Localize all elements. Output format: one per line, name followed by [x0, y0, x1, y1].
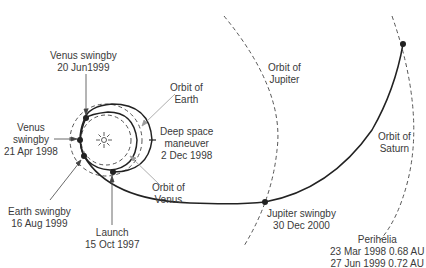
label-line: Orbit of [170, 82, 203, 94]
label-line: 20 Jun1999 [50, 62, 117, 74]
label-line: Venus [152, 194, 185, 206]
label-line: 15 Oct 1997 [85, 239, 139, 251]
label-perihelia: Perihelia 23 Mar 1998 0.68 AU 27 Jun 199… [330, 234, 425, 268]
label-venus-swingby-1: Venus swingby 21 Apr 1998 [4, 122, 58, 158]
label-orbit-earth: Orbit of Earth [170, 82, 203, 106]
label-line: swingby [4, 134, 58, 146]
jupiter-swingby-dot [262, 199, 268, 205]
label-line: 23 Mar 1998 0.68 AU [330, 246, 425, 258]
label-line: Orbit of [152, 182, 185, 194]
label-line: 21 Apr 1998 [4, 146, 58, 158]
label-line: 30 Dec 2000 [267, 220, 336, 232]
label-launch: Launch 15 Oct 1997 [85, 227, 139, 251]
label-line: Jupiter swingby [267, 208, 336, 220]
label-line: Earth [170, 94, 203, 106]
label-deep-space-maneuver: Deep space maneuver 2 Dec 1998 [160, 126, 213, 162]
orbit-saturn [380, 16, 414, 240]
label-line: Earth swingby [8, 206, 71, 218]
label-line: Deep space [160, 126, 213, 138]
sun-icon [96, 132, 112, 148]
leader-orbit-venus [132, 158, 160, 185]
label-venus-swingby-2: Venus swingby 20 Jun1999 [50, 50, 117, 74]
label-line: Saturn [378, 143, 411, 155]
leader-earth-swingby [50, 163, 79, 200]
label-line: maneuver [160, 138, 213, 150]
label-orbit-saturn: Orbit of Saturn [378, 131, 411, 155]
label-line: Orbit of [268, 62, 301, 74]
trajectory-loop-inner [80, 112, 137, 170]
label-line: 16 Aug 1999 [8, 218, 71, 230]
saturn-arrival-dot [400, 41, 406, 47]
label-orbit-venus: Orbit of Venus [152, 182, 185, 206]
label-line: Jupiter [268, 74, 301, 86]
label-line: Venus swingby [50, 50, 117, 62]
trajectory-loop-outer [80, 104, 152, 172]
label-line: 2 Dec 1998 [160, 150, 213, 162]
label-line: Launch [85, 227, 139, 239]
orbit-venus [81, 115, 131, 165]
label-line: Orbit of [378, 131, 411, 143]
venus-swingby-1-dot [77, 137, 83, 143]
trajectory-outbound [80, 44, 403, 204]
label-line: 27 Jun 1999 0.72 AU [330, 258, 425, 268]
launch-dot [110, 169, 116, 175]
label-earth-swingby: Earth swingby 16 Aug 1999 [8, 206, 71, 230]
label-orbit-jupiter: Orbit of Jupiter [268, 62, 301, 86]
label-line: Venus [4, 122, 58, 134]
label-jupiter-swingby: Jupiter swingby 30 Dec 2000 [267, 208, 336, 232]
earth-swingby-dot [81, 153, 87, 159]
label-line: Perihelia [330, 234, 425, 246]
